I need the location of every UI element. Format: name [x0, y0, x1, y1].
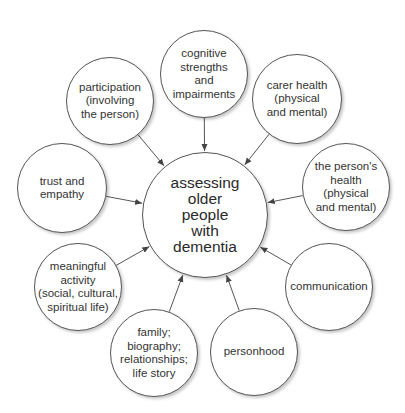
- node-label: personhood: [224, 345, 285, 359]
- arrow-participation: [138, 135, 164, 166]
- center-node: assessing older people with dementia: [142, 152, 268, 278]
- node-cognitive: cognitive strengths and impairments: [160, 30, 248, 118]
- node-meaningful-activity: meaningful activity (social, cultural, s…: [34, 243, 122, 331]
- arrow-personhood: [227, 275, 240, 310]
- arrow-carer-health: [245, 134, 269, 165]
- node-label: meaningful activity (social, cultural, s…: [38, 260, 118, 314]
- node-persons-health: the person's health (physical and mental…: [302, 143, 390, 231]
- node-label: cognitive strengths and impairments: [173, 47, 236, 101]
- node-personhood: personhood: [210, 308, 298, 396]
- arrow-trust-empathy: [106, 196, 142, 203]
- node-trust-empathy: trust and empathy: [17, 143, 107, 233]
- arrow-persons-health: [268, 196, 303, 203]
- arrow-meaningful-activity: [116, 247, 149, 266]
- node-label: participation (involving the person): [79, 81, 141, 122]
- node-participation: participation (involving the person): [66, 57, 154, 145]
- node-label: the person's health (physical and mental…: [315, 160, 377, 214]
- arrow-communication: [260, 247, 291, 265]
- node-communication: communication: [285, 243, 373, 331]
- node-label: communication: [290, 280, 367, 294]
- node-carer-health: carer health (physical and mental): [252, 54, 342, 144]
- arrow-family: [169, 275, 183, 312]
- node-label: carer health (physical and mental): [267, 79, 328, 120]
- node-label: family; biography; relationships; life s…: [120, 326, 188, 380]
- center-label: assessing older people with dementia: [171, 175, 240, 255]
- node-label: trust and empathy: [40, 175, 85, 202]
- node-family: family; biography; relationships; life s…: [110, 309, 198, 397]
